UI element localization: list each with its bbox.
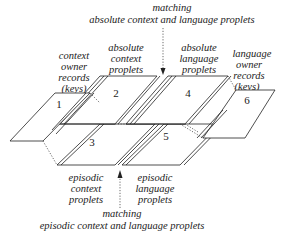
label-line: records [58,72,89,83]
proplet-matching-diagram: matching absolute context and language p… [0,0,290,232]
label-line: context [59,50,90,61]
label-line: language [179,53,218,64]
label-line: context [71,183,102,194]
label-language-owner-records: language owner records (keys) [232,48,271,93]
label-absolute-language-proplets: absolute language proplets [179,42,218,75]
label-line: absolute [108,42,144,53]
label-line: language [232,48,271,59]
label-line: language [135,183,174,194]
region-6-language-owner-records [203,90,275,138]
label-line: episodic [69,172,104,183]
region-5-number: 5 [163,130,169,142]
label-line: proplets [137,194,172,205]
label-line: proplets [68,194,103,205]
bottom-matching-caption: matching episodic context and language p… [40,208,205,231]
label-line: records [233,70,264,81]
label-line: proplets [181,64,216,75]
label-line: proplets [108,64,143,75]
region-6-number: 6 [244,94,250,106]
region-2-number: 2 [113,87,119,99]
label-context-owner-records: context owner records (keys) [58,50,90,95]
label-episodic-context-proplets: episodic context proplets [68,172,104,205]
label-episodic-language-proplets: episodic language proplets [135,172,174,205]
label-line: context [111,53,142,64]
bottom-caption-line2: episodic context and language proplets [40,220,205,231]
region-3-number: 3 [89,136,95,148]
label-absolute-context-proplets: absolute context proplets [108,42,144,75]
label-line: owner [61,61,88,72]
top-matching-caption: matching absolute context and language p… [89,2,254,25]
top-caption-line1: matching [152,2,191,13]
top-caption-line2: absolute context and language proplets [89,14,254,25]
region-1-number: 1 [56,98,62,110]
label-line: absolute [181,42,217,53]
region-4-number: 4 [185,87,191,99]
bottom-match-arrow [118,170,123,209]
bottom-caption-line1: matching [102,208,141,219]
top-match-arrow [161,28,166,75]
label-line: owner [236,59,263,70]
label-line: episodic [138,172,173,183]
